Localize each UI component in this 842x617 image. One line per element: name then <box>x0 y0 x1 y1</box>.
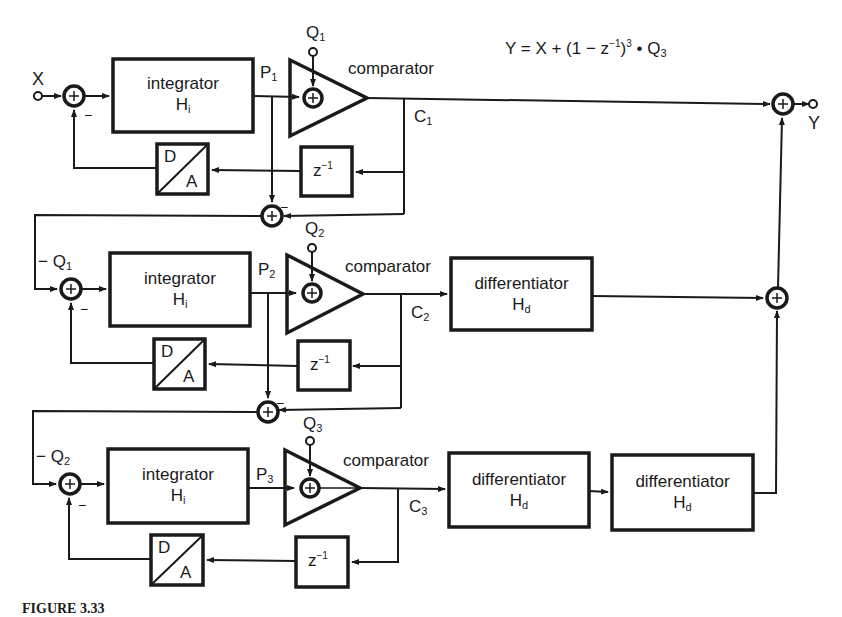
minus-sign-1: − <box>84 108 92 122</box>
comparator-3-label: comparator <box>343 452 429 469</box>
q1-terminal <box>309 48 317 56</box>
dac-2-a: A <box>183 368 194 385</box>
minus-q2-label: − Q2 <box>36 448 70 467</box>
c1-label: C1 <box>414 108 432 127</box>
c2-label: C2 <box>411 304 429 323</box>
input-label: X <box>32 70 44 88</box>
comparator-1-label: comparator <box>348 60 434 77</box>
figure-caption: FIGURE 3.33 <box>22 601 104 617</box>
delay-1-label: z−1 <box>313 161 333 179</box>
minus-sign-2: − <box>80 302 88 316</box>
integrator-1-sub: i <box>188 103 190 115</box>
differentiator-3b-text: differentiator Hd <box>612 471 753 515</box>
q3-terminal <box>306 437 314 445</box>
q2-label: Q2 <box>305 220 324 239</box>
equation-dot: • Q <box>632 39 661 58</box>
p3-label: P3 <box>256 466 273 485</box>
equation-lhs: Y = X + (1 − z <box>505 39 609 58</box>
integrator-2-label: integrator <box>110 268 250 289</box>
differentiator-2-text: differentiator Hd <box>451 273 592 317</box>
integrator-2-text: integrator Hi <box>110 268 250 312</box>
minus-sign-2b: − <box>276 396 284 410</box>
delay-2-label: z−1 <box>310 355 330 373</box>
minus-sign-1b: − <box>280 200 288 214</box>
integrator-1-text: integrator Hi <box>113 73 253 117</box>
p1-label: P1 <box>260 64 277 83</box>
p2-label: P2 <box>258 261 275 280</box>
dac-2-d: D <box>161 343 173 360</box>
transfer-equation: Y = X + (1 − z−1)3 • Q3 <box>505 39 667 59</box>
q1-label: Q1 <box>306 24 325 43</box>
comparator-2-label: comparator <box>345 258 431 275</box>
integrator-1-sym: H <box>176 95 188 114</box>
dac-3-d: D <box>158 539 170 556</box>
c3-label: C3 <box>409 498 427 517</box>
integrator-1-label: integrator <box>113 73 253 94</box>
dac-1-d: D <box>164 148 176 165</box>
minus-sign-3: − <box>78 498 86 512</box>
dac-1-a: A <box>186 173 197 190</box>
differentiator-3a-text: differentiator Hd <box>449 469 589 513</box>
output-terminal-y <box>809 100 817 108</box>
q3-label: Q3 <box>303 415 322 434</box>
minus-q1-label: − Q1 <box>38 253 72 272</box>
integrator-3-text: integrator Hi <box>108 464 248 508</box>
output-label: Y <box>808 114 820 132</box>
equation-sub: 3 <box>660 47 666 59</box>
input-terminal-x <box>34 92 42 100</box>
equation-exp1: −1 <box>609 38 620 49</box>
delay-3-label: z−1 <box>308 551 328 569</box>
dac-3-a: A <box>180 564 191 581</box>
q2-terminal <box>308 244 316 252</box>
